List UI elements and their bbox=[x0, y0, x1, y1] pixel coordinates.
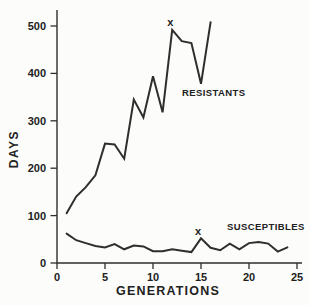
susceptibles-line bbox=[67, 234, 288, 253]
peak-marker-x: x bbox=[195, 225, 202, 237]
x-tick-label: 5 bbox=[102, 271, 108, 283]
x-tick-label: 25 bbox=[291, 271, 303, 283]
chart-canvas: 01002003004005000510152025xx bbox=[0, 0, 310, 305]
x-tick-label: 20 bbox=[243, 271, 255, 283]
y-tick-label: 200 bbox=[28, 162, 46, 174]
y-tick-label: 100 bbox=[28, 210, 46, 222]
y-tick-label: 500 bbox=[28, 20, 46, 32]
x-tick-label: 0 bbox=[54, 271, 60, 283]
x-axis-title: GENERATIONS bbox=[116, 284, 220, 298]
resistants-line bbox=[67, 22, 211, 213]
y-tick-label: 0 bbox=[40, 257, 46, 269]
series-label-resistants: RESISTANTS bbox=[182, 87, 245, 98]
line-chart-figure: 01002003004005000510152025xx DAYS GENERA… bbox=[0, 0, 310, 305]
x-tick-label: 10 bbox=[147, 271, 159, 283]
y-tick-label: 400 bbox=[28, 67, 46, 79]
series-label-susceptibles: SUSCEPTIBLES bbox=[227, 221, 305, 232]
x-tick-label: 15 bbox=[195, 271, 207, 283]
peak-marker-x: x bbox=[167, 16, 174, 28]
y-tick-label: 300 bbox=[28, 115, 46, 127]
y-axis-title: DAYS bbox=[7, 130, 21, 168]
